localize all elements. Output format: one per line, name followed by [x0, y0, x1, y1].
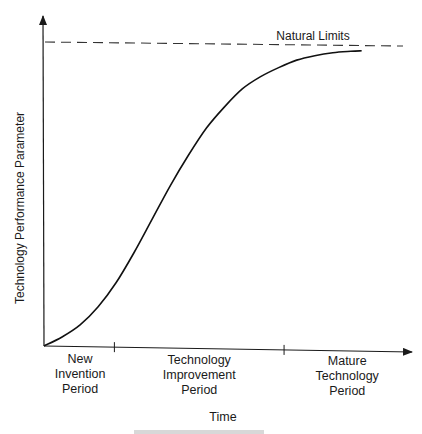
- y-axis-label: Technology Performance Parameter: [13, 112, 27, 304]
- x-axis: [44, 346, 412, 352]
- cut-off-caption: [134, 430, 264, 434]
- period-label-line: Invention: [55, 367, 106, 381]
- period-label-line: Technology: [316, 369, 380, 383]
- natural-limits-label: Natural Limits: [276, 29, 349, 43]
- x-axis-label: Time: [209, 410, 236, 424]
- period-label-line: Period: [329, 384, 365, 398]
- s-curve-line: [44, 51, 362, 346]
- period-label-2: MatureTechnologyPeriod: [316, 354, 380, 398]
- period-label-line: New: [68, 352, 94, 366]
- period-label-0: NewInventionPeriod: [55, 352, 106, 396]
- period-labels: NewInventionPeriodTechnologyImprovementP…: [55, 352, 380, 398]
- period-label-line: Mature: [328, 354, 367, 368]
- period-label-line: Technology: [168, 353, 232, 367]
- period-label-1: TechnologyImprovementPeriod: [163, 353, 236, 397]
- period-label-line: Period: [62, 382, 98, 396]
- period-label-line: Improvement: [163, 368, 236, 382]
- s-curve-chart: Natural Limits NewInventionPeriodTechnol…: [0, 0, 422, 434]
- y-axis: [43, 16, 44, 346]
- period-label-line: Period: [181, 383, 217, 397]
